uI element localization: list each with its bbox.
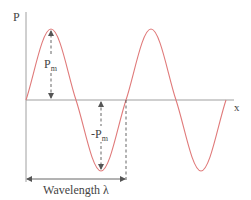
- wave-diagram: P x Pm -Pm Wavelength λ: [0, 0, 251, 200]
- x-axis-label: x: [234, 101, 240, 113]
- neg-amplitude-label-base: -P: [91, 127, 102, 141]
- wavelength-label: Wavelength λ: [43, 183, 109, 197]
- y-axis-label: P: [13, 10, 20, 24]
- amplitude-label-sub: m: [51, 64, 58, 73]
- neg-amplitude-label-sub: m: [102, 134, 109, 143]
